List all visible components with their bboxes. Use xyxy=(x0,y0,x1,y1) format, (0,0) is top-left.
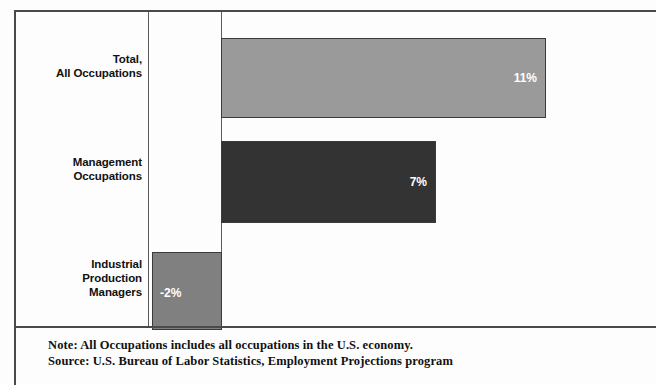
category-label-line: Management xyxy=(16,155,142,169)
category-label-management-occupations: Management Occupations xyxy=(16,155,142,183)
category-label-line: Total, xyxy=(16,52,142,66)
category-label-line: All Occupations xyxy=(16,66,142,80)
chart-row-industrial-production-managers: Industrial Production Managers -2% xyxy=(16,234,656,326)
category-label-industrial-production-managers: Industrial Production Managers xyxy=(16,257,142,299)
category-label-line: Occupations xyxy=(16,169,142,183)
bar-industrial-production-managers[interactable]: -2% xyxy=(152,252,222,330)
category-label-line: Managers xyxy=(16,285,142,299)
notes-divider-rule xyxy=(14,326,656,328)
source-text: Source: U.S. Bureau of Labor Statistics,… xyxy=(48,353,648,369)
footnote-block: Note: All Occupations includes all occup… xyxy=(48,337,648,369)
note-text: Note: All Occupations includes all occup… xyxy=(48,337,648,353)
bar-management-occupations[interactable]: 7% xyxy=(221,141,436,223)
chart-row-management-occupations: Management Occupations 7% xyxy=(16,128,656,222)
category-label-line: Industrial xyxy=(16,257,142,271)
chart-figure: Total, All Occupations 11% Management Oc… xyxy=(0,0,656,385)
bar-total-all-occupations[interactable]: 11% xyxy=(221,38,546,118)
chart-row-total-all-occupations: Total, All Occupations 11% xyxy=(16,26,656,120)
plot-area: Total, All Occupations 11% Management Oc… xyxy=(16,12,656,326)
bar-value-label-total-all-occupations: 11% xyxy=(514,72,537,84)
bar-value-label-management-occupations: 7% xyxy=(410,176,427,188)
category-label-total-all-occupations: Total, All Occupations xyxy=(16,52,142,80)
bar-value-label-industrial-production-managers: -2% xyxy=(160,287,181,299)
category-label-line: Production xyxy=(16,271,142,285)
